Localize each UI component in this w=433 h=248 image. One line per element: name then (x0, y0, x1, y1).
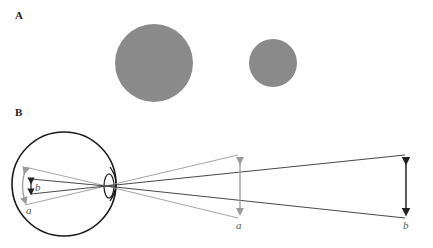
retina-label-b: b (35, 181, 41, 193)
retina-image-a-arrow (23, 171, 26, 201)
large-disc (115, 24, 193, 102)
eyeball (12, 132, 116, 236)
retina-label-a: a (26, 204, 32, 216)
gray-rays (25, 155, 238, 218)
dark-rays (31, 155, 405, 218)
object-label-b: b (403, 219, 409, 231)
small-disc (249, 39, 297, 87)
object-label-a: a (236, 219, 242, 231)
diagram-canvas: b a a b (0, 0, 433, 248)
